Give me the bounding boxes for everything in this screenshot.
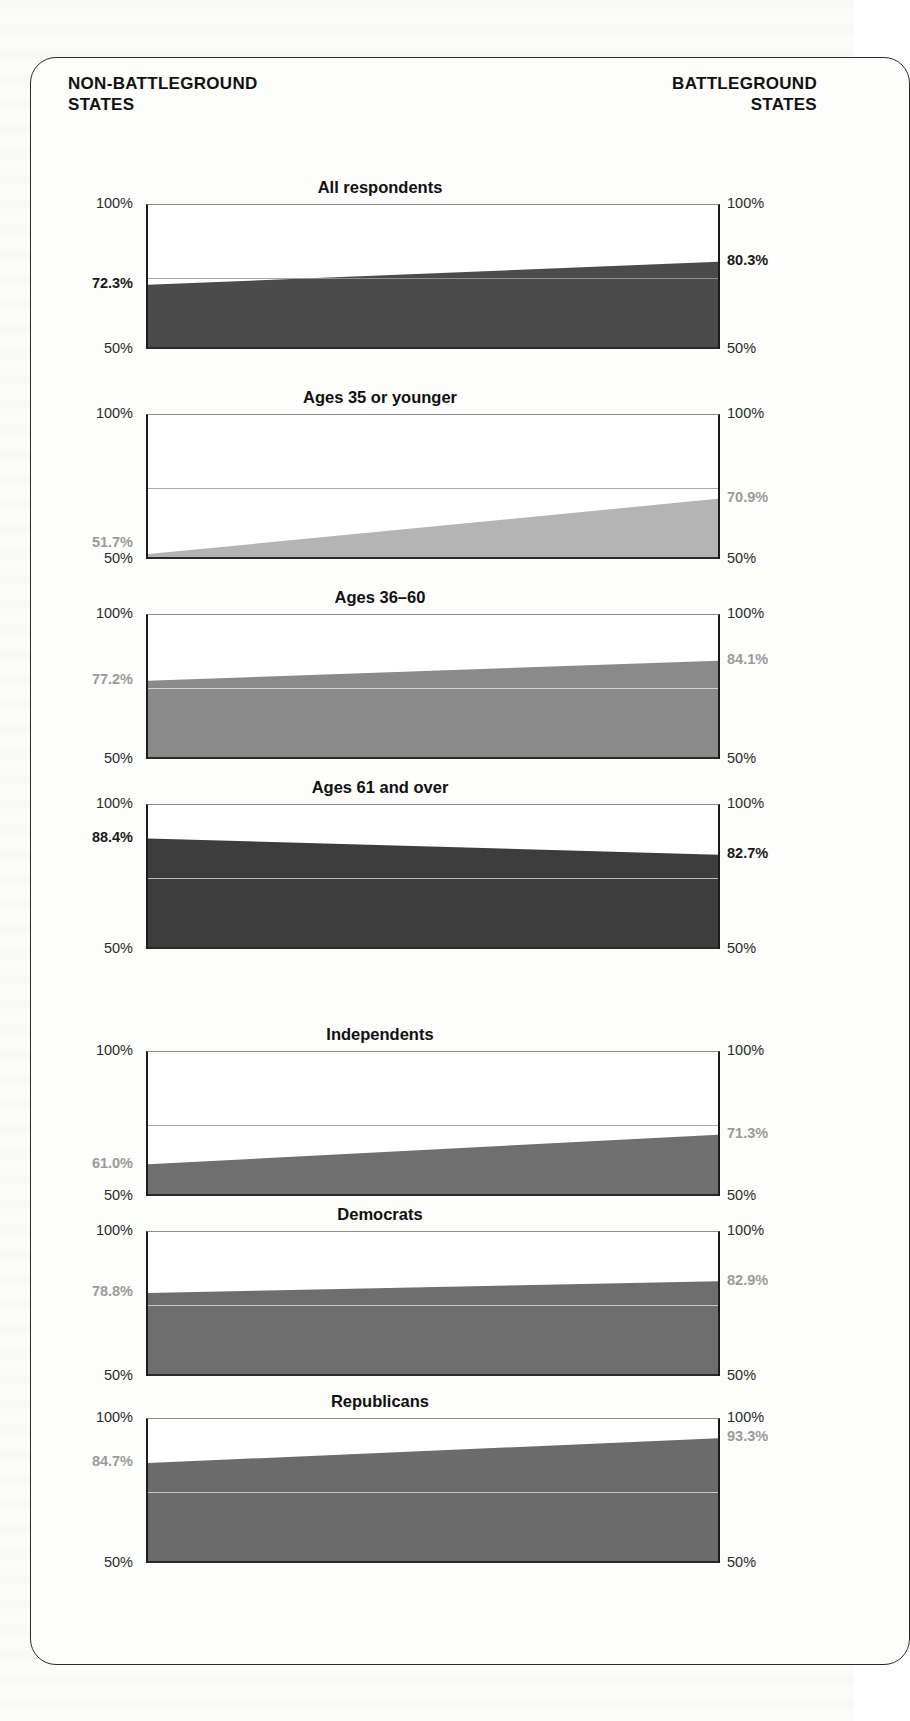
axis-baseline (146, 1374, 720, 1376)
right-value-label: 71.3% (727, 1125, 847, 1141)
right-axis-tick-bottom: 50% (727, 1367, 847, 1383)
plot-area (146, 204, 720, 349)
left-axis-tick-top: 100% (0, 1222, 140, 1238)
right-value-label: 82.9% (727, 1272, 847, 1288)
axis-baseline (146, 947, 720, 949)
left-value-label: 61.0% (0, 1155, 140, 1171)
right-axis-tick-top: 100% (727, 405, 847, 421)
chart-panel: Ages 36–60100%50%100%50%77.2%84.1% (0, 588, 854, 763)
header-left-line1: NON-BATTLEGROUND (68, 73, 258, 94)
right-axis-tick-top: 100% (727, 795, 847, 811)
plot-area (146, 1051, 720, 1196)
left-axis-tick-top: 100% (0, 1409, 140, 1425)
left-axis-tick-top: 100% (0, 605, 140, 621)
chart-panel: Democrats100%50%100%50%78.8%82.9% (0, 1205, 854, 1380)
right-axis-tick-bottom: 50% (727, 1554, 847, 1570)
chart-panel: Independents100%50%100%50%61.0%71.3% (0, 1025, 854, 1200)
right-value-label: 84.1% (727, 651, 847, 667)
right-value-label: 70.9% (727, 489, 847, 505)
left-axis-tick-bottom: 50% (0, 550, 140, 566)
chart-panel: All respondents100%50%100%50%72.3%80.3% (0, 178, 854, 353)
left-value-label: 88.4% (0, 829, 140, 845)
left-axis-tick-bottom: 50% (0, 940, 140, 956)
left-axis-tick-top: 100% (0, 1042, 140, 1058)
gridline-75 (148, 878, 718, 879)
right-axis-tick-bottom: 50% (727, 1187, 847, 1203)
left-axis-tick-top: 100% (0, 195, 140, 211)
left-axis-tick-bottom: 50% (0, 340, 140, 356)
left-value-label: 84.7% (0, 1453, 140, 1469)
chart-panel: Ages 35 or younger100%50%100%50%51.7%70.… (0, 388, 854, 563)
right-axis-tick-top: 100% (727, 1409, 847, 1425)
right-axis-tick-top: 100% (727, 1222, 847, 1238)
plot-area (146, 804, 720, 949)
gridline-75 (148, 1125, 718, 1126)
left-axis-tick-bottom: 50% (0, 750, 140, 766)
plot-area (146, 414, 720, 559)
left-axis-tick-top: 100% (0, 405, 140, 421)
chart-panel: Ages 61 and over100%50%100%50%88.4%82.7% (0, 778, 854, 953)
gridline-75 (148, 688, 718, 689)
axis-baseline (146, 1194, 720, 1196)
gridline-75 (148, 1492, 718, 1493)
gridline-75 (148, 488, 718, 489)
left-axis-tick-top: 100% (0, 795, 140, 811)
right-axis-tick-top: 100% (727, 605, 847, 621)
header-left-line2: STATES (68, 94, 258, 115)
header-right-line2: STATES (672, 94, 817, 115)
right-value-label: 93.3% (727, 1428, 847, 1444)
axis-baseline (146, 347, 720, 349)
right-axis-tick-bottom: 50% (727, 340, 847, 356)
left-value-label: 78.8% (0, 1283, 140, 1299)
right-value-label: 80.3% (727, 252, 847, 268)
left-axis-tick-bottom: 50% (0, 1187, 140, 1203)
chart-panel: Republicans100%50%100%50%84.7%93.3% (0, 1392, 854, 1567)
header-right-line1: BATTLEGROUND (672, 73, 817, 94)
axis-baseline (146, 557, 720, 559)
left-value-label: 77.2% (0, 671, 140, 687)
left-value-label: 51.7% (0, 534, 140, 550)
header-non-battleground: NON-BATTLEGROUND STATES (68, 73, 258, 116)
left-axis-tick-bottom: 50% (0, 1367, 140, 1383)
gridline-75 (148, 278, 718, 279)
header-battleground: BATTLEGROUND STATES (672, 73, 817, 116)
right-axis-tick-bottom: 50% (727, 550, 847, 566)
left-axis-tick-bottom: 50% (0, 1554, 140, 1570)
right-axis-tick-top: 100% (727, 195, 847, 211)
plot-area (146, 1418, 720, 1563)
right-axis-tick-bottom: 50% (727, 750, 847, 766)
left-value-label: 72.3% (0, 275, 140, 291)
axis-baseline (146, 1561, 720, 1563)
axis-baseline (146, 757, 720, 759)
gridline-75 (148, 1305, 718, 1306)
right-axis-tick-bottom: 50% (727, 940, 847, 956)
right-value-label: 82.7% (727, 845, 847, 861)
plot-area (146, 614, 720, 759)
plot-area (146, 1231, 720, 1376)
right-axis-tick-top: 100% (727, 1042, 847, 1058)
